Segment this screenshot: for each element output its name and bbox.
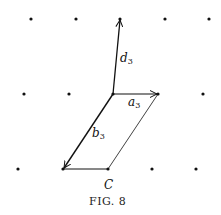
lattice-point	[74, 17, 77, 20]
lattice-diagram: d3 a3 b3 C FIG. 8	[0, 0, 221, 215]
label-c: C	[104, 178, 113, 192]
lattice-point	[16, 167, 19, 170]
vector-d3-arrow	[113, 20, 120, 94]
label-b3: b3	[92, 126, 105, 141]
label-a3: a3	[128, 95, 140, 110]
label-d3: d3	[120, 51, 133, 66]
lattice-point	[207, 17, 210, 20]
lattice-point	[29, 17, 32, 20]
lattice-point	[67, 92, 70, 95]
lattice-point	[150, 167, 153, 170]
figure-caption: FIG. 8	[89, 195, 126, 208]
lattice-point	[163, 17, 166, 20]
lattice-point	[22, 92, 25, 95]
vector-b3-arrow	[64, 94, 113, 168]
lattice-point	[194, 167, 197, 170]
lattice-point	[201, 92, 204, 95]
